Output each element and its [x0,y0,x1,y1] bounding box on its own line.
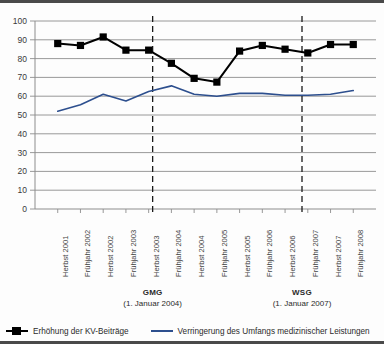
x-axis-tick-label: Frühjahr 2004 [174,230,183,277]
x-axis-tick-label: Frühjahr 2006 [265,230,274,277]
legend-marker-line-icon [151,326,173,336]
legend-marker-square-icon [6,326,28,336]
y-axis-tick-label: 80 [18,54,28,64]
data-point-marker [100,33,107,40]
annotation-gmg-subtitle: (1. Januar 2004) [93,298,213,309]
annotation-gmg: GMG (1. Januar 2004) [93,287,213,309]
line-chart: 1009080706050403020100 [0,9,384,214]
y-axis-tick-label: 10 [18,185,28,195]
annotation-wsg-subtitle: (1. Januar 2007) [242,298,362,309]
x-axis-tick-label: Herbst 2001 [61,236,70,277]
x-axis-tick-label: Herbst 2004 [197,236,206,277]
y-axis-tick-label: 40 [18,129,28,139]
data-point-marker [304,49,311,56]
data-point-marker [213,79,220,86]
x-axis-tick-label: Herbst 2006 [288,236,297,277]
x-axis-tick-label: Herbst 2003 [152,236,161,277]
data-point-marker [54,40,61,47]
x-axis-tick-label: Frühjahr 2002 [83,230,92,277]
x-axis-labels: Herbst 2001Frühjahr 2002Herbst 2002Frühj… [0,215,384,285]
plot-area: 1009080706050403020100 [0,9,384,214]
data-point-marker [259,42,266,49]
y-axis-tick-label: 70 [18,72,28,82]
chart-legend: Erhöhung der KV-Beiträge Verringerung de… [6,323,378,339]
data-point-marker [122,47,129,54]
annotation-gmg-title: GMG [93,287,213,298]
y-axis-tick-label: 50 [18,110,28,120]
y-axis-tick-label: 100 [13,16,27,26]
x-axis-tick-label: Frühjahr 2005 [220,230,229,277]
data-point-marker [350,41,357,48]
x-axis-tick-label: Frühjahr 2003 [129,230,138,277]
x-axis-tick-label: Herbst 2007 [334,236,343,277]
legend-label: Erhöhung der KV-Beiträge [33,327,129,336]
x-axis-tick-label: Frühjahr 2008 [356,230,365,277]
y-axis-tick-label: 20 [18,166,28,176]
legend-item-umfang-leistungen: Verringerung des Umfangs medizinischer L… [129,326,370,336]
data-point-marker [145,47,152,54]
y-axis-tick-label: 90 [18,35,28,45]
legend-item-kv-beitraege: Erhöhung der KV-Beiträge [6,326,129,336]
legend-label: Verringerung des Umfangs medizinischer L… [178,327,370,336]
x-axis-tick-label: Herbst 2005 [243,236,252,277]
data-point-marker [236,47,243,54]
annotation-wsg-title: WSG [242,287,362,298]
data-point-marker [77,42,84,49]
data-point-marker [281,46,288,53]
x-axis-tick-label: Frühjahr 2007 [311,230,320,277]
data-point-marker [191,75,198,82]
series-line-1 [58,86,354,111]
y-axis-tick-label: 0 [22,204,27,214]
x-axis-tick-label: Herbst 2002 [106,236,115,277]
series-line-0 [58,37,354,82]
data-point-marker [327,41,334,48]
y-axis-tick-label: 30 [18,148,28,158]
y-axis-tick-label: 60 [18,91,28,101]
annotation-wsg: WSG (1. Januar 2007) [242,287,362,309]
data-point-marker [168,60,175,67]
figure-frame: 1009080706050403020100 Herbst 2001Frühja… [0,0,384,344]
